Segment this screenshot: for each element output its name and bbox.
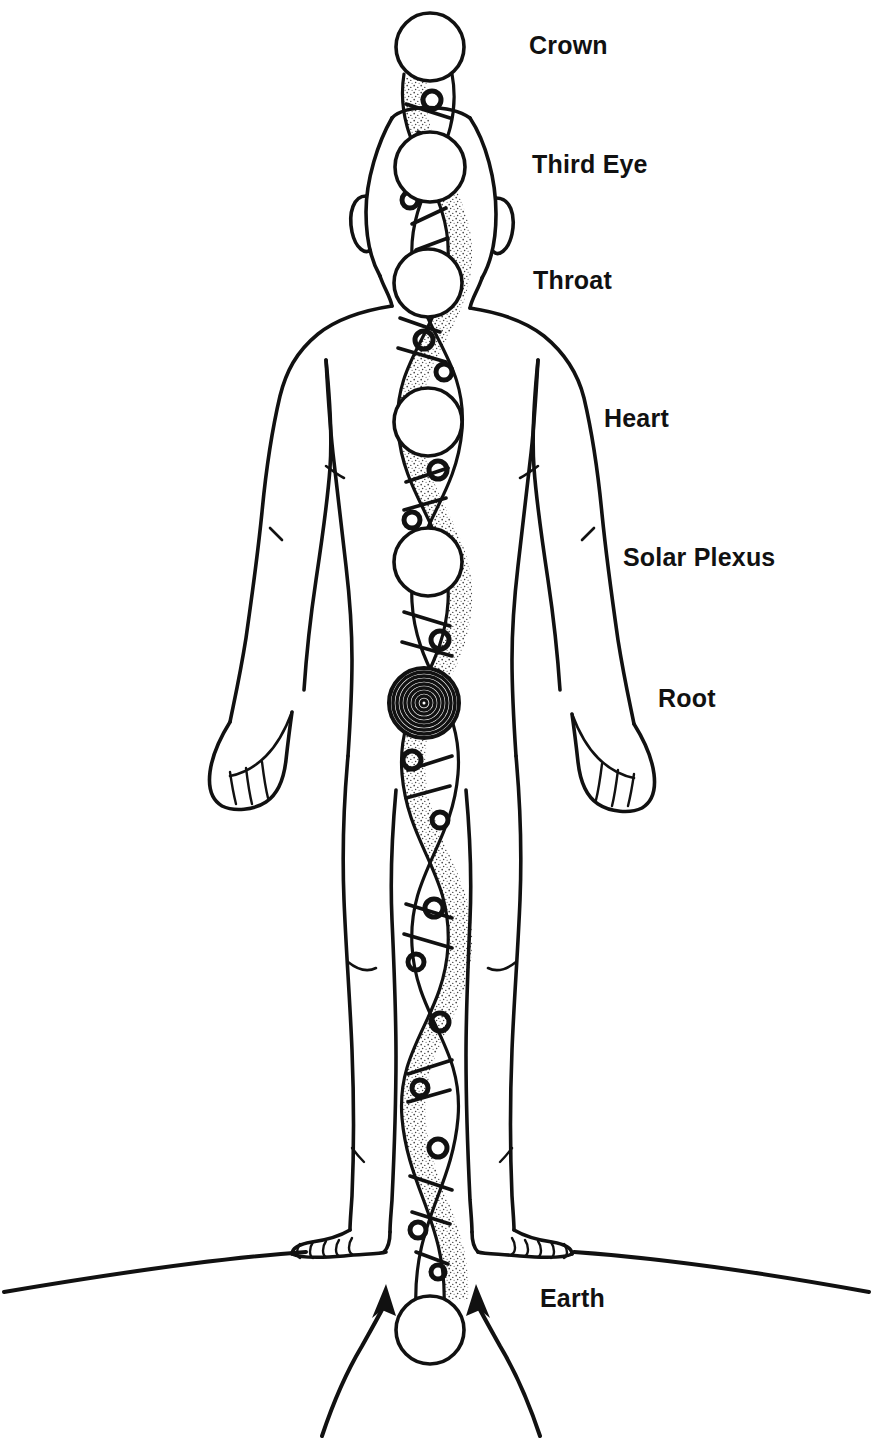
figure-illustration [0,0,873,1438]
right-energy-arrow-shaft [476,1302,540,1436]
left-hand [210,712,293,809]
left-torso [326,360,352,756]
right-knee-crease [488,962,516,970]
right-foot [472,1230,572,1258]
right-outer-leg [511,756,521,1230]
chakra-label-root: Root [658,686,716,711]
chakra-marker-third-eye [395,132,465,202]
right-hand [572,714,655,811]
left-knee-crease [348,962,376,970]
left-wrist-crease [270,528,282,540]
left-inner-arm [304,360,331,690]
chakra-label-crown: Crown [529,33,608,58]
chakra-diagram: Crown Third Eye Throat Heart Solar Plexu… [0,0,873,1438]
left-inner-leg [390,790,396,1232]
right-shoulder-arm [470,308,634,724]
left-outer-leg [343,756,353,1230]
left-energy-arrow-shaft [322,1302,386,1436]
chakra-label-heart: Heart [604,406,669,431]
chakra-label-solar-plexus: Solar Plexus [623,545,775,570]
left-shoulder-arm [230,306,392,722]
right-inner-leg [466,790,472,1232]
right-inner-arm [533,360,560,690]
chakra-label-throat: Throat [533,268,612,293]
chakra-marker-earth [396,1296,464,1364]
chakra-marker-solar-plexus [394,528,462,596]
chakra-marker-heart [394,388,462,456]
chakra-marker-root [389,668,459,738]
right-energy-arrow-head [466,1284,490,1318]
chakra-label-third-eye: Third Eye [532,152,648,177]
chakra-marker-throat [394,249,462,317]
chakra-label-earth: Earth [540,1286,605,1311]
chakra-marker-crown [396,13,464,81]
right-wrist-crease [582,528,594,540]
right-torso [512,360,538,756]
left-energy-arrow-head [372,1284,396,1318]
